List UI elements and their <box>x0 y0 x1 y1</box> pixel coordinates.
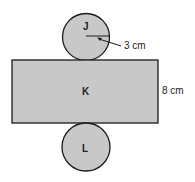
label-k: K <box>82 86 90 97</box>
label-j: J <box>83 21 89 32</box>
cylinder-net-diagram: J K L 3 cm 8 cm <box>0 0 195 182</box>
radius-dimension-label: 3 cm <box>124 40 146 51</box>
height-dimension-label: 8 cm <box>162 85 184 96</box>
label-l: L <box>82 143 88 154</box>
